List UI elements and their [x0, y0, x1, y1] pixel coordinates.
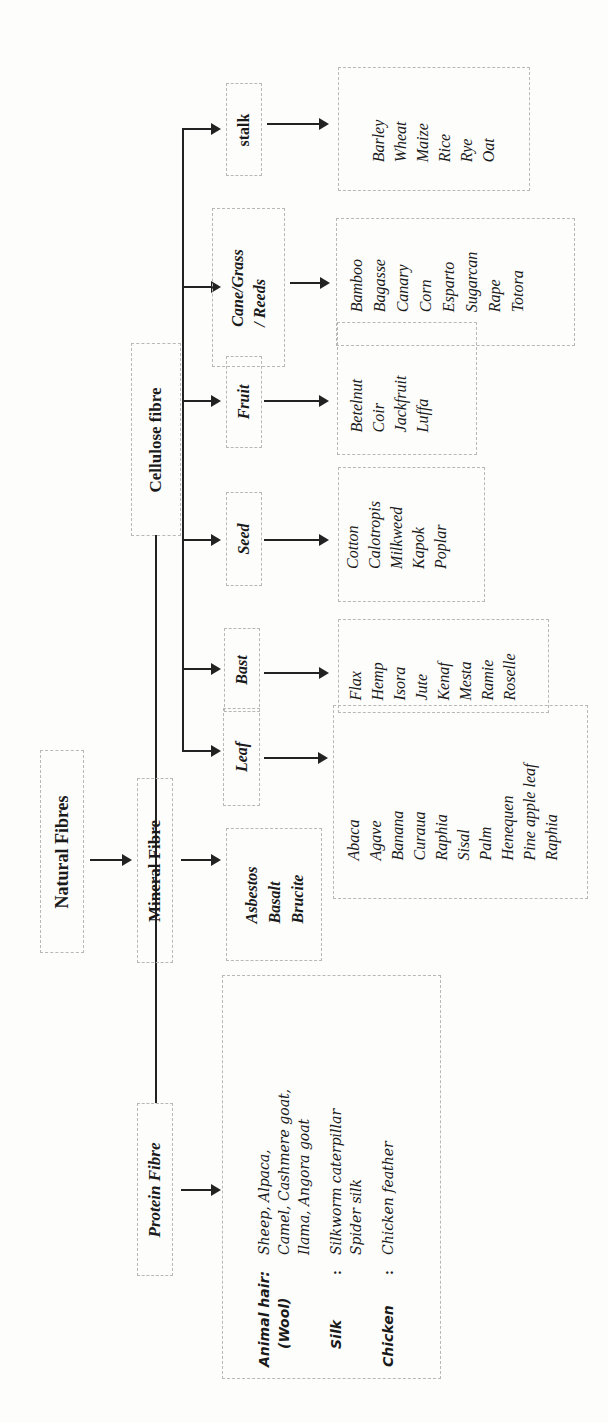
mineral-items-box: Asbestos Basalt Brucite: [226, 828, 322, 961]
category-cane-box: Cane/Grass / Reeds: [212, 208, 285, 367]
list-item: Sugarcan: [460, 252, 483, 313]
category-leaf-box: Leaf: [223, 708, 260, 806]
list-item: Banana: [387, 763, 409, 860]
list-item: Roselle: [499, 653, 521, 700]
list-item: Kapok: [408, 501, 430, 569]
list-item: Corn: [414, 252, 437, 313]
mineral-item: Brucite: [286, 866, 309, 923]
cane-items-list: Bamboo Bagasse Canary Corn Esparto Sugar…: [345, 252, 529, 313]
arrow-seed-to-items: [264, 539, 327, 541]
list-item: Kenaf: [433, 653, 455, 700]
mineral-fibre-label: Mineral Fibre: [145, 819, 165, 921]
arrow-mineral-to-items: [181, 859, 219, 861]
protein-fibre-box: Protein Fibre: [137, 1103, 173, 1276]
category-leaf-label: Leaf: [233, 742, 251, 772]
list-item: Abaca: [343, 763, 365, 860]
list-item: Jackfruit: [390, 376, 412, 433]
protein-item: Spider silk: [346, 1109, 366, 1255]
arrow-natural-to-mineral: [90, 859, 130, 861]
stalk-items-box: Barley Wheat Maize Rice Rye Oat: [338, 67, 530, 191]
list-item: Sisal: [453, 763, 475, 860]
seed-items-box: Cotton Calotropis Milkweed Kapok Poplar: [338, 467, 485, 602]
category-fruit-box: Fruit: [226, 356, 262, 448]
arrow-bus-to-bast: [183, 668, 219, 670]
list-item: Agave: [365, 763, 387, 860]
list-item: Flax: [345, 653, 367, 700]
bast-items-list: Flax Hemp Isora Jute Kenaf Mesta Ramie R…: [345, 653, 521, 700]
list-item: Rye: [456, 120, 478, 163]
list-item: Barley: [368, 120, 390, 163]
protein-group-label: Chicken: [378, 1275, 398, 1367]
list-item: Bamboo: [345, 252, 368, 313]
list-item: Coir: [368, 376, 390, 433]
cellulose-bus-line: [182, 128, 184, 752]
category-bast-label: Bast: [233, 655, 251, 684]
category-fruit-label: Fruit: [235, 385, 253, 420]
protein-item: Camel, Cashmere goat,: [274, 1089, 294, 1255]
category-cane-line1: Cane/Grass: [227, 249, 249, 326]
category-bast-box: Bast: [224, 628, 260, 712]
protein-group-animal-hair: Animal hair: (Wool) Sheep, Alpaca, Camel…: [254, 987, 314, 1367]
list-item: Wheat: [390, 120, 412, 163]
mineral-items-list: Asbestos Basalt Brucite: [240, 866, 309, 923]
leaf-items-box: Abaca Agave Banana Curaua Raphia Sisal P…: [333, 705, 588, 899]
list-item: Canary: [391, 252, 414, 313]
arrow-bus-to-leaf: [183, 750, 219, 752]
leaf-items-list: Abaca Agave Banana Curaua Raphia Sisal P…: [343, 763, 563, 860]
protein-group-label: Silk: [326, 1275, 366, 1367]
category-stalk-box: stalk: [226, 83, 262, 176]
list-item: Isora: [389, 653, 411, 700]
protein-group-chicken: Chicken : Chicken feather: [378, 987, 398, 1367]
arrow-protein-to-items: [181, 1189, 219, 1191]
list-item: Maize: [412, 120, 434, 163]
arrow-bus-to-fruit: [183, 400, 219, 402]
category-seed-label: Seed: [235, 523, 253, 554]
protein-items-box: Animal hair: (Wool) Sheep, Alpaca, Camel…: [222, 975, 441, 1379]
protein-item: Sheep, Alpaca,: [254, 1089, 274, 1255]
protein-group-silk: Silk : Silkworm caterpillar Spider silk: [326, 987, 366, 1367]
list-item: Luffa: [412, 376, 434, 433]
list-item: Hemp: [367, 653, 389, 700]
list-item: Pine apple leaf: [519, 763, 541, 860]
category-cane-line2: / Reeds: [249, 249, 271, 326]
list-item: Calotropis: [364, 501, 386, 569]
list-item: Cotton: [342, 501, 364, 569]
list-item: Totora: [506, 252, 529, 313]
category-cane-label: Cane/Grass / Reeds: [227, 249, 271, 326]
protein-items-grid: Animal hair: (Wool) Sheep, Alpaca, Camel…: [254, 987, 410, 1367]
list-item: Rape: [483, 252, 506, 313]
arrow-cane-to-items: [290, 282, 328, 284]
fruit-items-box: Betelnut Coir Jackfruit Luffa: [337, 322, 477, 455]
protein-fibre-label: Protein Fibre: [145, 1142, 165, 1237]
category-stalk-label: stalk: [235, 113, 253, 146]
protein-item: Ilama, Angora goat: [294, 1089, 314, 1255]
list-item: Jute: [411, 653, 433, 700]
mineral-fibre-box: Mineral Fibre: [137, 778, 173, 963]
protein-group-separator: :: [326, 1255, 366, 1275]
cellulose-fibre-label: Cellulose fibre: [146, 387, 166, 492]
list-item: Raphia: [431, 763, 453, 860]
list-item: Mesta: [455, 653, 477, 700]
seed-items-list: Cotton Calotropis Milkweed Kapok Poplar: [342, 501, 452, 569]
list-item: Poplar: [430, 501, 452, 569]
list-item: Raphia: [541, 763, 563, 860]
list-item: Betelnut: [346, 376, 368, 433]
fruit-items-list: Betelnut Coir Jackfruit Luffa: [346, 376, 434, 433]
list-item: Rice: [434, 120, 456, 163]
arrow-fruit-to-items: [264, 400, 327, 402]
protein-group-separator: :: [378, 1255, 398, 1275]
arrow-stalk-to-items: [267, 123, 327, 125]
cellulose-fibre-box: Cellulose fibre: [131, 343, 181, 536]
natural-fibres-label: Natural Fibres: [52, 795, 73, 908]
stalk-items-list: Barley Wheat Maize Rice Rye Oat: [368, 120, 500, 163]
mineral-item: Basalt: [263, 866, 286, 923]
category-seed-box: Seed: [226, 492, 262, 586]
arrow-bast-to-items: [264, 672, 327, 674]
list-item: Oat: [478, 120, 500, 163]
list-item: Palm: [475, 763, 497, 860]
list-item: Bagasse: [368, 252, 391, 313]
natural-fibres-box: Natural Fibres: [40, 750, 84, 953]
list-item: Henequen: [497, 763, 519, 860]
list-item: Curaua: [409, 763, 431, 860]
protein-item: Silkworm caterpillar: [326, 1109, 346, 1255]
